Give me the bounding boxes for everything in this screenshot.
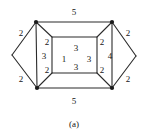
edge-label-right-lower-outer: 2 [126, 75, 131, 84]
edge-label-inner-rect-top: 3 [74, 44, 79, 53]
edge-label-inner-rect-left: 1 [62, 55, 67, 64]
edge-right-lower-outer [112, 56, 136, 88]
edge-label-inner-bottom-left: 2 [45, 66, 50, 75]
edge-inner-top-right-diagonal [97, 22, 112, 37]
edge-left-lower-outer [12, 55, 37, 88]
edge-label-top-outer: 5 [72, 8, 77, 17]
edge-label-inner-rect-right: 3 [87, 55, 92, 64]
edge-label-inner-rect-bottom: 3 [74, 63, 79, 72]
edge-label-inner-top-right: 2 [100, 38, 105, 47]
edge-label-inner-top-left: 2 [45, 38, 50, 47]
figure-container: 5 5 2 2 2 2 3 4 2 2 2 2 3 1 3 3 (a) [0, 0, 148, 134]
edge-label-inner-bottom-right: 2 [100, 66, 105, 75]
edge-label-right-vertical: 4 [108, 52, 113, 61]
vertex-bottom-right [110, 86, 114, 90]
edge-inner-top-left-diagonal [36, 22, 52, 37]
edge-left-upper-outer [12, 22, 36, 55]
diagonal-edges [36, 22, 112, 88]
edge-inner-bottom-left-diagonal [37, 73, 52, 88]
edge-label-bottom-outer: 5 [72, 97, 77, 106]
edge-label-left-lower-outer: 2 [19, 75, 24, 84]
edge-right-upper-outer [112, 22, 136, 56]
edge-left-vertical [36, 22, 37, 88]
edge-inner-bottom-right-diagonal [97, 73, 112, 88]
vertex-bottom-left [35, 86, 39, 90]
edge-label-right-upper-outer: 2 [126, 29, 131, 38]
edge-label-left-vertical: 3 [42, 52, 47, 61]
outer-edges [12, 22, 136, 88]
figure-caption: (a) [69, 119, 79, 129]
vertex-top-right [110, 20, 114, 24]
vertex-top-left [34, 20, 38, 24]
edge-label-left-upper-outer: 2 [19, 29, 24, 38]
